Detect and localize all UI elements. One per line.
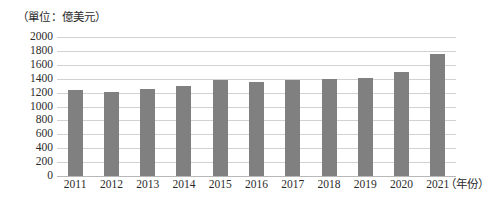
bar-2011	[68, 90, 83, 176]
bar-chart-figure: （單位：億美元） 2000180016001400120010008006004…	[0, 0, 499, 208]
x-axis-tick-labels: 2011201220132014201520162017201820192020…	[57, 179, 456, 197]
y-axis-tick-label: 400	[1, 142, 53, 154]
bar-2014	[176, 86, 191, 176]
y-axis-tick-label: 1400	[1, 73, 53, 85]
y-axis-tick-labels: 2000180016001400120010008006004002000	[0, 37, 53, 176]
x-axis-title: （年份）	[445, 179, 489, 191]
bar-2020	[394, 72, 409, 176]
bar-2017	[285, 80, 300, 176]
bar-2013	[140, 89, 155, 176]
y-axis-tick-label: 200	[1, 156, 53, 168]
bar-2021	[430, 54, 445, 176]
y-axis-tick-label: 1200	[1, 87, 53, 99]
y-axis-tick-label: 1000	[1, 101, 53, 113]
chart-unit-caption: （單位：億美元）	[17, 8, 107, 24]
y-axis-tick-label: 1600	[1, 59, 53, 71]
bar-2015	[213, 80, 228, 176]
y-axis-tick-label: 2000	[1, 31, 53, 43]
bar-2019	[358, 78, 373, 176]
plot-area	[57, 37, 456, 176]
gridline-2000	[57, 37, 456, 38]
bar-2016	[249, 82, 264, 176]
gridline-1600	[57, 65, 456, 66]
y-axis-tick-label: 1800	[1, 45, 53, 57]
bar-2012	[104, 92, 119, 176]
y-axis-tick-label: 800	[1, 115, 53, 127]
y-axis-tick-label: 600	[1, 129, 53, 141]
y-axis-tick-label: 0	[1, 170, 53, 182]
bar-2018	[322, 79, 337, 176]
gridline-0	[57, 176, 456, 177]
gridline-1800	[57, 51, 456, 52]
